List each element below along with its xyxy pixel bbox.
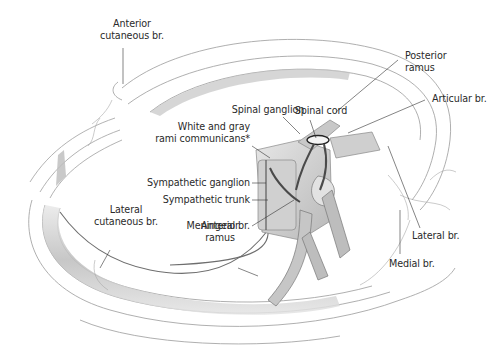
label-line: rami communicans* [150,133,250,145]
spinal-nerve-diagram: Anterior cutaneous br. Spinal cord Spina… [0,0,498,353]
left-rib-fragment [30,118,122,198]
label-rami-communicans: White and gray rami communicans* [150,121,250,145]
label-line: ramus [405,62,485,74]
label-line: Posterior [405,50,485,62]
label-anterior-cutaneous-br: Anterior cutaneous br. [92,18,172,42]
label-text: Spinal ganglion [228,104,308,116]
label-line: Lateral [86,204,166,216]
label-medial-br: Medial br. [389,258,459,270]
rib-cut-surface [56,150,66,186]
label-line: White and gray [150,121,250,133]
label-lateral-cutaneous-br: Lateral cutaneous br. [86,204,166,228]
label-line: ramus [190,232,250,244]
label-line: cutaneous br. [92,30,172,42]
label-text: Lateral br. [412,230,482,242]
label-line: Anterior [92,18,172,30]
label-text: Medial br. [389,258,459,270]
label-sympathetic-ganglion: Sympathetic ganglion [140,177,250,189]
label-anterior-ramus: Anterior ramus [190,220,250,244]
label-posterior-ramus: Posterior ramus [405,50,485,74]
label-spinal-ganglion: Spinal ganglion [228,104,308,116]
label-articular-br: Articular br. [432,93,498,105]
vertebra-complex [256,120,380,306]
label-lateral-br: Lateral br. [412,230,482,242]
label-line: cutaneous br. [86,216,166,228]
label-line: Anterior [190,220,250,232]
label-text: Articular br. [432,93,498,105]
label-text: Sympathetic ganglion [140,177,250,189]
spinal-cord-shape [307,136,329,145]
